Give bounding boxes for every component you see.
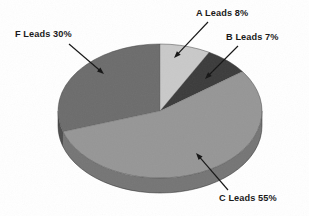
slice-label-b: B Leads 7% (226, 33, 279, 42)
pie-chart-figure: A Leads 8% B Leads 7% F Leads 30% C Lead… (0, 0, 309, 216)
slice-label-f: F Leads 30% (15, 30, 72, 39)
slice-label-c: C Leads 55% (219, 194, 277, 203)
slice-label-a: A Leads 8% (196, 9, 248, 18)
